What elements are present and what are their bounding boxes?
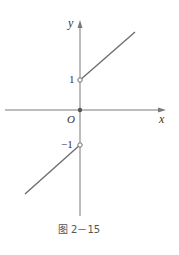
x-axis-label: x	[159, 113, 164, 125]
tick-label-neg1: −1	[61, 139, 73, 150]
origin-point	[78, 108, 82, 112]
tick-label-1: 1	[69, 74, 75, 85]
open-point-y1	[78, 78, 82, 82]
y-axis-label: y	[68, 17, 73, 29]
y-axis-arrow-icon	[78, 20, 83, 28]
figure-caption: 图 2－15	[0, 221, 158, 236]
function-graph: y x O 1 −1 图 2－15	[0, 0, 179, 255]
upper-ray	[82, 32, 136, 79]
graph-canvas	[0, 0, 179, 255]
lower-ray	[25, 146, 79, 194]
open-point-y-neg1	[78, 143, 82, 147]
origin-label: O	[67, 114, 75, 125]
